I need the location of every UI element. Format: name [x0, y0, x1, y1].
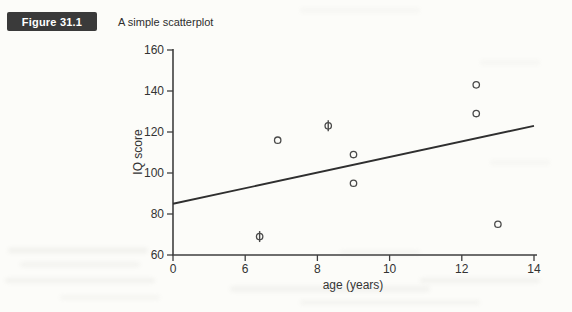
x-tick-label: 6 [242, 262, 249, 276]
y-tick-label: 140 [144, 84, 164, 98]
scatter-point [495, 221, 501, 227]
x-tick-label: 14 [527, 262, 541, 276]
y-tick-label: 120 [144, 125, 164, 139]
scatter-point [473, 82, 479, 88]
y-axis-title: IQ score [131, 129, 145, 175]
x-tick-label: 12 [455, 262, 469, 276]
x-axis-title: age (years) [323, 278, 384, 292]
scatter-point [274, 137, 280, 143]
y-tick-label: 60 [151, 248, 165, 262]
x-tick-label: 0 [170, 262, 177, 276]
scatterplot-chart: 6080100120140160068101214IQ scoreage (ye… [0, 0, 572, 312]
x-tick-label: 8 [314, 262, 321, 276]
y-tick-label: 100 [144, 166, 164, 180]
y-tick-label: 80 [151, 207, 165, 221]
y-tick-label: 160 [144, 43, 164, 57]
regression-line [173, 126, 534, 204]
scatter-point [350, 180, 356, 186]
scatter-point [350, 151, 356, 157]
x-tick-label: 10 [383, 262, 397, 276]
scatter-point [473, 110, 479, 116]
